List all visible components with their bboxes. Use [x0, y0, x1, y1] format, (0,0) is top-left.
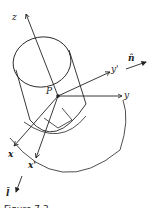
cylinder — [9, 32, 86, 131]
label-p: P — [45, 86, 53, 96]
l-hat-arrow — [16, 176, 22, 192]
point-p — [56, 94, 60, 98]
label-y: y — [123, 90, 130, 100]
x-axis — [14, 96, 58, 146]
label-x: x — [7, 149, 14, 159]
label-y-prime: y' — [110, 64, 119, 74]
label-n-hat: n̂ — [128, 53, 135, 63]
label-z: z — [11, 12, 17, 22]
coordinate-diagram: z P y y' n̂ x x' l̂ Figure 7.3 — [0, 0, 156, 208]
z-axis — [26, 14, 58, 96]
figure-caption: Figure 7.3 — [4, 204, 49, 208]
label-l-hat: l̂ — [6, 187, 10, 198]
label-x-prime: x' — [27, 160, 36, 170]
x-prime-axis — [36, 96, 58, 158]
n-hat-arrow — [126, 62, 146, 69]
